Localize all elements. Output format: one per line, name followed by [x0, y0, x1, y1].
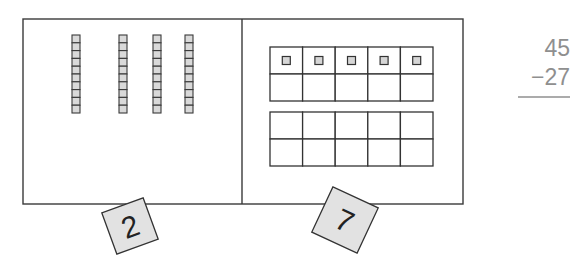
subtrahend: −27: [531, 64, 570, 90]
tens-rod: [185, 35, 193, 113]
ten-frame: [270, 47, 433, 101]
tens-digit-card: 2: [102, 198, 158, 254]
ten-frame: [270, 112, 433, 166]
ones-digit-card: 7: [312, 187, 378, 253]
unit-cube: [282, 57, 290, 65]
tens-rod: [72, 35, 80, 113]
ten-frames: [270, 47, 433, 166]
tens-rod: [153, 35, 161, 113]
tens-rods: [72, 35, 193, 113]
minuend: 45: [544, 35, 570, 61]
unit-cube: [315, 57, 323, 65]
unit-cube: [413, 57, 421, 65]
tens-rod: [119, 35, 127, 113]
place-value-diagram: 2 7 45 −27: [0, 0, 580, 258]
unit-cube: [348, 57, 356, 65]
unit-cube: [380, 57, 388, 65]
subtraction-problem: 45 −27: [518, 35, 570, 97]
